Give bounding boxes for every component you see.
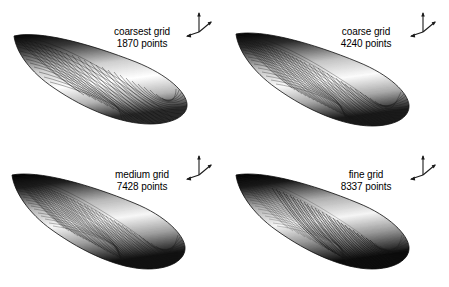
panel-coarse-grid: coarse grid 4240 points [224,0,448,143]
panel-caption-coarsest: coarsest grid 1870 points [96,26,188,49]
panel-coarsest-grid: coarsest grid 1870 points [0,0,224,143]
panel-caption-fine: fine grid 8337 points [320,169,412,192]
points-label: 8337 points [320,181,412,193]
xyz-axis-triad-icon [408,10,438,40]
grid-label: medium grid [96,169,188,181]
xyz-axis-triad-icon [184,10,214,40]
grid-label: coarse grid [320,26,412,38]
panel-fine-grid: fine grid 8337 points [224,143,448,286]
points-label: 1870 points [96,38,188,50]
xyz-axis-triad-icon [408,153,438,183]
panel-caption-coarse: coarse grid 4240 points [320,26,412,49]
grid-label: coarsest grid [96,26,188,38]
grid-label: fine grid [320,169,412,181]
panel-medium-grid: medium grid 7428 points [0,143,224,286]
grid-refinement-figure: coarsest grid 1870 points [0,0,449,287]
panel-caption-medium: medium grid 7428 points [96,169,188,192]
xyz-axis-triad-icon [184,153,214,183]
points-label: 7428 points [96,181,188,193]
points-label: 4240 points [320,38,412,50]
